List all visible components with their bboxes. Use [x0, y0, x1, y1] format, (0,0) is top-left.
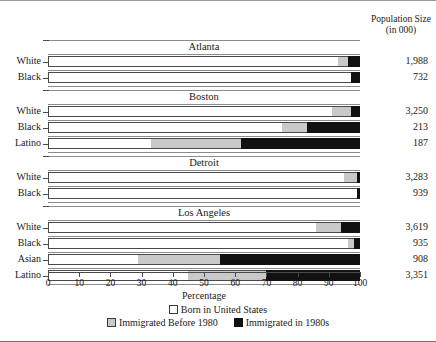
segment-immigrated-before-1980 — [338, 56, 347, 67]
row-label-boston-latino: Latino — [0, 137, 41, 148]
segment-immigrated-before-1980 — [138, 254, 219, 265]
segment-immigrated-before-1980 — [151, 138, 241, 149]
row-rule — [48, 104, 360, 105]
group-header-boston: Boston — [48, 91, 360, 102]
row-rule — [48, 268, 360, 269]
segment-immigrated-in-1980s — [220, 254, 360, 265]
x-tick-20 — [110, 272, 111, 277]
segment-born-in-us — [48, 138, 151, 149]
x-tick-30 — [142, 272, 143, 277]
legend-swatch-immigrated-in-1980s — [234, 318, 243, 327]
segment-born-in-us — [48, 122, 282, 133]
group-end-rule — [48, 152, 360, 153]
segment-immigrated-in-1980s — [307, 122, 360, 133]
population-value-boston-latino: 187 — [368, 137, 428, 148]
x-tick-label-20: 20 — [95, 278, 125, 288]
segment-immigrated-in-1980s — [241, 138, 360, 149]
x-tick-label-60: 60 — [220, 278, 250, 288]
population-size-header-line2: (in 000) — [368, 25, 434, 36]
x-tick-label-70: 70 — [251, 278, 281, 288]
x-tick-90 — [329, 272, 330, 277]
row-label-atlanta-black: Black — [0, 71, 41, 82]
row-rule — [48, 170, 360, 171]
x-tick-60 — [235, 272, 236, 277]
segment-immigrated-in-1980s — [351, 72, 360, 83]
legend-item-born-in-us: Born in United States — [169, 303, 267, 316]
population-value-atlanta-black: 732 — [368, 71, 428, 82]
segment-born-in-us — [48, 188, 357, 199]
segment-immigrated-in-1980s — [357, 172, 360, 183]
row-label-detroit-black: Black — [0, 187, 41, 198]
group-end-rule — [48, 86, 360, 87]
row-rule — [48, 136, 360, 137]
bar-los-angeles-asian — [48, 254, 360, 265]
x-tick-label-50: 50 — [189, 278, 219, 288]
group-header-atlanta: Atlanta — [48, 41, 360, 52]
bar-los-angeles-white — [48, 222, 360, 233]
row-rule — [48, 54, 360, 55]
x-tick-40 — [173, 272, 174, 277]
population-size-header: Population Size (in 000) — [368, 14, 434, 36]
population-value-detroit-black: 939 — [368, 187, 428, 198]
segment-immigrated-in-1980s — [351, 106, 360, 117]
x-tick-label-30: 30 — [127, 278, 157, 288]
population-value-los-angeles-latino: 3,351 — [368, 269, 428, 280]
group-header-los-angeles: Los Angeles — [48, 207, 360, 218]
x-tick-100 — [360, 272, 361, 277]
legend-swatch-born-in-us — [169, 305, 178, 314]
segment-immigrated-before-1980 — [332, 106, 351, 117]
x-tick-label-0: 0 — [33, 278, 63, 288]
population-value-los-angeles-black: 935 — [368, 237, 428, 248]
legend-label-immigrated-in-1980s: Immigrated in 1980s — [246, 316, 329, 329]
group-header-detroit: Detroit — [48, 157, 360, 168]
row-label-boston-black: Black — [0, 121, 41, 132]
segment-born-in-us — [48, 72, 351, 83]
bar-atlanta-black — [48, 72, 360, 83]
x-tick-label-10: 10 — [64, 278, 94, 288]
segment-immigrated-in-1980s — [348, 56, 360, 67]
bar-atlanta-white — [48, 56, 360, 67]
legend-item-immigrated-before-1980: Immigrated Before 1980 — [107, 316, 218, 329]
row-rule — [48, 70, 360, 71]
bar-detroit-white — [48, 172, 360, 183]
segment-immigrated-in-1980s — [354, 238, 360, 249]
row-rule — [48, 220, 360, 221]
x-tick-label-90: 90 — [314, 278, 344, 288]
legend-row-2: Immigrated Before 1980 Immigrated in 198… — [0, 316, 436, 329]
segment-born-in-us — [48, 56, 338, 67]
segment-born-in-us — [48, 238, 348, 249]
x-tick-label-80: 80 — [283, 278, 313, 288]
segment-immigrated-before-1980 — [316, 222, 341, 233]
segment-immigrated-before-1980 — [282, 122, 307, 133]
legend-swatch-immigrated-before-1980 — [107, 318, 116, 327]
row-label-detroit-white: White — [0, 171, 41, 182]
row-label-atlanta-white: White — [0, 55, 41, 66]
legend-label-immigrated-before-1980: Immigrated Before 1980 — [119, 316, 218, 329]
row-rule — [48, 186, 360, 187]
row-rule — [48, 120, 360, 121]
group-end-rule — [48, 202, 360, 203]
x-axis-title: Percentage — [48, 290, 360, 301]
bar-los-angeles-black — [48, 238, 360, 249]
x-tick-10 — [79, 272, 80, 277]
population-size-header-line1: Population Size — [368, 14, 434, 25]
x-tick-70 — [266, 272, 267, 277]
row-rule — [48, 236, 360, 237]
x-tick-label-100: 100 — [345, 278, 375, 288]
population-value-los-angeles-asian: 908 — [368, 253, 428, 264]
segment-born-in-us — [48, 172, 344, 183]
population-value-detroit-white: 3,283 — [368, 171, 428, 182]
legend-label-born-in-us: Born in United States — [181, 303, 267, 316]
chart-legend: Born in United States Immigrated Before … — [0, 303, 436, 329]
legend-row-1: Born in United States — [0, 303, 436, 316]
bar-boston-latino — [48, 138, 360, 149]
row-label-los-angeles-black: Black — [0, 237, 41, 248]
row-label-los-angeles-asian: Asian — [0, 253, 41, 264]
row-label-los-angeles-white: White — [0, 221, 41, 232]
population-value-boston-white: 3,250 — [368, 105, 428, 116]
segment-immigrated-in-1980s — [357, 188, 360, 199]
segment-born-in-us — [48, 106, 332, 117]
x-tick-50 — [204, 272, 205, 277]
segment-born-in-us — [48, 254, 138, 265]
population-value-atlanta-white: 1,988 — [368, 55, 428, 66]
